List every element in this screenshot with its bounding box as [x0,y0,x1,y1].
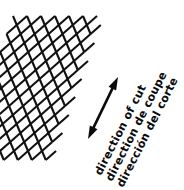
figure-canvas: direction of cut direction de coupe dire… [0,0,184,190]
direction-of-cut-figure: direction of cut direction de coupe dire… [0,0,184,190]
